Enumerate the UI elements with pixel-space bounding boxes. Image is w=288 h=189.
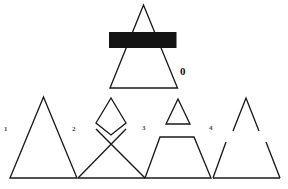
option-4-apex-wedge [233,98,259,131]
option-1-triangle [10,97,77,178]
option-label-4: 4 [209,125,213,132]
option-3-figure[interactable] [145,99,211,178]
target-figure-group [109,5,178,88]
option-label-2: 2 [72,126,76,133]
option-4-right-side [266,142,280,178]
option-2-figure[interactable] [78,98,145,178]
option-4-figure[interactable] [213,98,280,178]
figure-sheet: 0 1 2 3 4 [0,0,288,189]
option-2-right-leg [96,129,145,178]
option-2-left-leg [78,129,126,178]
option-3-floating-triangle [166,99,190,124]
target-label-0: 0 [180,66,186,77]
option-1-figure[interactable] [10,97,77,178]
option-label-3: 3 [142,125,146,132]
option-label-1: 1 [4,126,8,133]
option-3-trapezoid [145,137,211,178]
option-2-upper-kite [96,98,126,135]
figure-diagram [0,0,288,189]
option-4-left-side [213,142,226,178]
occluder-bar [109,32,177,48]
